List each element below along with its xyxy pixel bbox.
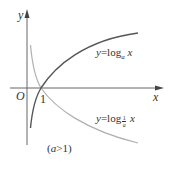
log-function-diagram [0, 0, 170, 169]
y-axis-arrow-icon [25, 9, 30, 18]
condition-annotation: (a>1) [47, 143, 72, 154]
fraction-denominator: a [122, 122, 126, 128]
curve-label-log-a-subscript: a [121, 53, 125, 61]
curve-label-log-inv-prefix: =log [101, 112, 121, 124]
curve-label-log-inverse-a: y=log1a x [96, 113, 135, 128]
origin-label: O [16, 90, 25, 102]
curve-label-log-inv-fraction: 1a [122, 115, 126, 128]
curve-label-log-a-var: x [127, 46, 132, 58]
curve-label-log-a-prefix: =log [101, 46, 121, 58]
curve-label-log-a: y=loga x [96, 47, 132, 58]
curve-label-log-inv-var: x [130, 112, 135, 124]
x-tick-label-1: 1 [40, 93, 46, 105]
x-axis-label: x [153, 91, 158, 103]
condition-text: (a>1) [47, 142, 72, 154]
y-axis-label: y [18, 9, 23, 21]
fraction-numerator: 1 [122, 115, 126, 122]
